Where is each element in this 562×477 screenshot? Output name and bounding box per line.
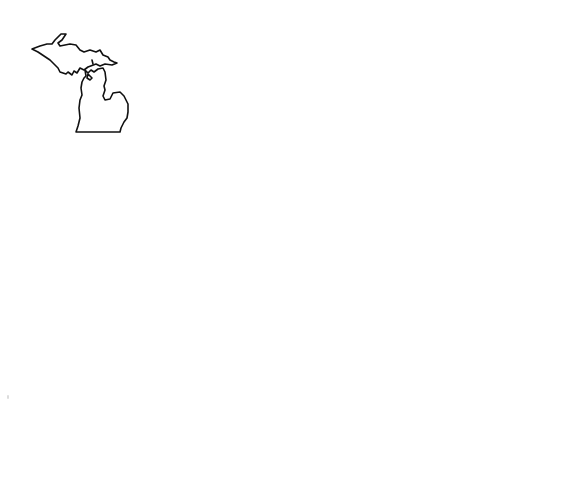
artifact-speck: [7, 395, 9, 399]
state-outlines-grid: [0, 0, 562, 477]
michigan-outline: [32, 34, 128, 132]
